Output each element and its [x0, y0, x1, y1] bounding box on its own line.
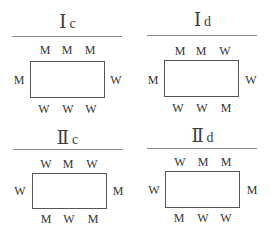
title-divider	[13, 149, 123, 150]
title-divider	[147, 35, 257, 36]
panel-title-sub: c	[69, 16, 75, 31]
right-label: M	[244, 184, 260, 196]
top-label-3: M	[218, 156, 234, 168]
panel-IId: Ⅱd W M M W M M W W	[135, 118, 270, 236]
panel-Ic: Ⅰc M M M M W W W W	[0, 0, 135, 118]
panel-title-sub: c	[72, 132, 78, 147]
top-label-1: M	[172, 45, 188, 57]
top-label-3: W	[84, 158, 100, 170]
title-divider	[12, 36, 122, 37]
top-label-1: W	[38, 158, 54, 170]
left-label: M	[145, 74, 161, 86]
panel-title-roman: Ⅰ	[194, 10, 201, 30]
right-label: W	[243, 74, 259, 86]
bottom-label-3: M	[218, 102, 234, 114]
top-label-1: W	[172, 156, 188, 168]
table-rectangle	[30, 61, 105, 98]
panel-title-roman: Ⅱ	[191, 126, 203, 146]
bottom-label-2: W	[61, 213, 77, 225]
left-label: M	[11, 74, 27, 86]
bottom-label-1: M	[38, 213, 54, 225]
panel-title: Ⅱd	[135, 128, 270, 146]
panel-title: Ⅰc	[0, 14, 135, 32]
top-label-1: M	[37, 44, 53, 56]
table-rectangle	[32, 173, 107, 209]
bottom-label-1: M	[171, 212, 187, 224]
panel-title-roman: Ⅰ	[59, 12, 66, 32]
top-label-3: W	[217, 45, 233, 57]
panel-title-sub: d	[204, 14, 211, 29]
panel-IIc: Ⅱc W M W W M M W M	[0, 118, 135, 236]
bottom-label-1: W	[170, 102, 186, 114]
panel-title-roman: Ⅱ	[57, 128, 69, 148]
panel-title: Ⅰd	[135, 12, 270, 30]
bottom-label-2: W	[194, 102, 210, 114]
bottom-label-1: W	[36, 103, 52, 115]
table-rectangle	[164, 60, 239, 97]
left-label: W	[12, 185, 28, 197]
panel-title: Ⅱc	[0, 130, 135, 148]
top-label-2: M	[59, 44, 75, 56]
bottom-label-3: W	[218, 212, 234, 224]
bottom-label-2: W	[195, 212, 211, 224]
top-label-2: M	[195, 156, 211, 168]
top-label-2: M	[60, 158, 76, 170]
right-label: W	[108, 74, 124, 86]
panel-title-sub: d	[207, 130, 214, 145]
table-rectangle	[165, 171, 240, 208]
top-label-2: M	[193, 45, 209, 57]
right-label: M	[110, 185, 126, 197]
title-divider	[147, 148, 257, 149]
bottom-label-3: M	[85, 213, 101, 225]
panel-Id: Ⅰd M M W M W W W M	[135, 0, 270, 118]
left-label: W	[146, 184, 162, 196]
bottom-label-2: W	[60, 103, 76, 115]
top-label-3: M	[82, 44, 98, 56]
bottom-label-3: W	[83, 103, 99, 115]
